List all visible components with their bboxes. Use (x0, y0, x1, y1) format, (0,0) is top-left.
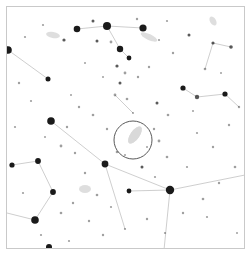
nebula-group (46, 15, 219, 193)
star-point (188, 34, 191, 37)
sky-chart-frame (6, 6, 245, 249)
star-point (186, 166, 188, 168)
star-point (102, 161, 109, 168)
star-point (84, 62, 86, 64)
star-point (14, 126, 16, 128)
star-point (35, 158, 41, 164)
star-point (220, 72, 222, 74)
star-point (206, 216, 208, 218)
star-point (103, 22, 111, 30)
star-point (46, 77, 51, 82)
constellation-line (205, 43, 213, 69)
star-point (46, 244, 52, 248)
star-point (18, 82, 20, 84)
star-point (30, 100, 32, 102)
star-point (106, 128, 108, 130)
star-point (44, 136, 46, 138)
star-point (204, 68, 207, 71)
star-point (148, 66, 150, 68)
star-point (180, 85, 185, 90)
constellation-line (105, 164, 170, 190)
star-chart-root (0, 0, 251, 258)
star-point (124, 154, 126, 156)
constellation-line (164, 190, 170, 248)
constellation-line (170, 175, 244, 190)
star-point (156, 102, 159, 105)
constellation-line (38, 161, 53, 192)
constellation-line (197, 94, 225, 97)
star-point (68, 240, 70, 242)
star-point (47, 117, 55, 125)
star-point (158, 39, 160, 41)
star-point (117, 46, 123, 52)
star-point (102, 76, 104, 78)
star-point (115, 64, 118, 67)
star-point (96, 40, 99, 43)
constellation-line (35, 192, 53, 220)
star-point (92, 114, 95, 117)
nebula-blob (79, 185, 91, 193)
star-point (166, 186, 174, 194)
star-point (166, 156, 169, 159)
star-point (84, 172, 86, 174)
star-point (202, 198, 205, 201)
star-point (96, 194, 99, 197)
star-point (158, 140, 161, 143)
star-point (166, 20, 168, 22)
star-point (70, 94, 72, 96)
star-point (136, 18, 138, 20)
constellation-line (129, 190, 170, 191)
star-point (124, 72, 127, 75)
star-point (229, 45, 233, 49)
star-point (137, 76, 139, 78)
constellation-line (115, 95, 133, 113)
star-point (164, 232, 166, 234)
star-point (167, 114, 170, 117)
star-point (9, 162, 14, 167)
star-point (60, 212, 63, 215)
star-point (88, 220, 90, 222)
constellation-line (8, 50, 48, 79)
star-point (74, 26, 81, 33)
constellation-line (105, 164, 125, 229)
star-point (110, 41, 113, 44)
star-point (234, 166, 237, 169)
star-point (114, 94, 117, 97)
star-point (24, 36, 26, 38)
star-point (141, 166, 144, 169)
star-point (218, 182, 220, 184)
nebula-blob (208, 15, 218, 27)
star-point (211, 41, 214, 44)
star-point (195, 95, 199, 99)
star-point (196, 132, 198, 134)
nebula-blob (46, 31, 61, 39)
star-point (127, 189, 132, 194)
star-point (192, 110, 194, 112)
star-point (146, 218, 148, 220)
constellation-line (77, 26, 107, 29)
star-point (74, 152, 76, 154)
star-point (236, 232, 238, 234)
star-point (31, 216, 39, 224)
fov-marker-group[interactable] (114, 121, 152, 159)
star-point (172, 52, 174, 54)
star-point (238, 106, 240, 108)
star-point (78, 106, 80, 108)
star-point (126, 98, 129, 101)
star-point (110, 206, 112, 208)
star-point (102, 234, 104, 236)
star-point (127, 56, 132, 61)
star-point (42, 24, 44, 26)
star-point (222, 91, 227, 96)
star-point (182, 212, 184, 214)
star-point (62, 38, 65, 41)
star-point (72, 202, 74, 204)
star-point (146, 146, 148, 148)
star-point (153, 128, 155, 130)
nebula-blob (140, 30, 159, 43)
star-point (228, 124, 230, 126)
constellation-line (7, 213, 35, 220)
constellation-line (213, 43, 231, 47)
constellation-line (225, 94, 239, 107)
constellation-line (107, 26, 143, 28)
